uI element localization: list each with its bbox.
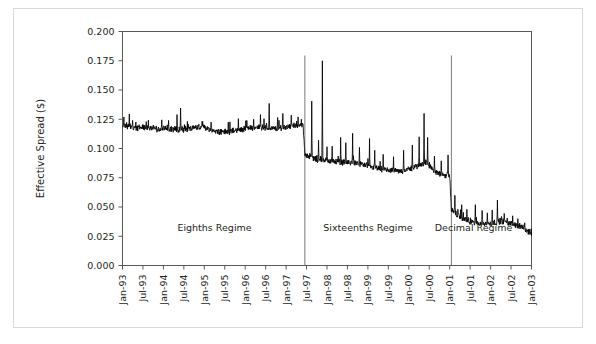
y-tick-label: 0.050: [87, 201, 114, 212]
y-axis-title: Effective Spread ($): [35, 99, 46, 198]
x-tick-label: Jul-00: [424, 275, 435, 303]
x-tick-label: Jan-01: [444, 275, 455, 306]
x-tick-label: Jan-94: [158, 275, 169, 306]
x-tick-label: Jan-97: [281, 275, 292, 306]
x-tick-label: Jan-03: [526, 275, 537, 306]
x-tick-label: Jul-02: [506, 275, 517, 303]
regime-annotation: Sixteenths Regime: [323, 222, 412, 233]
regime-annotations: Eighths RegimeSixteenths RegimeDecimal R…: [177, 222, 512, 233]
x-tick-label: Jul-98: [342, 275, 353, 303]
x-tick-label: Jul-97: [301, 275, 312, 303]
y-tick-label: 0.175: [87, 55, 114, 66]
x-tick-label: Jan-95: [199, 275, 210, 306]
x-axis-ticks: Jan-93Jul-93Jan-94Jul-94Jan-95Jul-95Jan-…: [117, 266, 537, 306]
effective-spread-line-chart: 0.0000.0250.0500.0750.1000.1250.1500.175…: [0, 0, 596, 344]
y-tick-label: 0.125: [87, 114, 114, 125]
x-tick-label: Jul-99: [383, 275, 394, 303]
x-tick-label: Jul-96: [260, 275, 271, 303]
y-tick-label: 0.000: [87, 260, 114, 271]
x-tick-label: Jan-93: [117, 275, 128, 306]
x-tick-label: Jan-00: [403, 275, 414, 306]
y-axis-title-label: Effective Spread ($): [35, 99, 46, 198]
regime-annotation: Eighths Regime: [177, 222, 251, 233]
y-tick-label: 0.075: [87, 172, 114, 183]
x-tick-label: Jan-02: [485, 275, 496, 306]
y-tick-label: 0.150: [87, 84, 114, 95]
x-tick-label: Jan-98: [322, 275, 333, 306]
x-tick-label: Jan-96: [240, 275, 251, 306]
y-tick-label: 0.100: [87, 143, 114, 154]
chart-figure: 0.0000.0250.0500.0750.1000.1250.1500.175…: [0, 0, 596, 344]
x-tick-label: Jul-94: [178, 275, 189, 303]
regime-annotation: Decimal Regime: [435, 222, 513, 233]
y-tick-label: 0.200: [87, 26, 114, 37]
x-tick-label: Jul-01: [465, 275, 476, 303]
regime-divider-lines: [305, 56, 452, 266]
x-tick-label: Jan-99: [362, 275, 373, 306]
data-series-effective-spread: [123, 61, 532, 236]
y-tick-label: 0.025: [87, 231, 114, 242]
x-tick-label: Jul-95: [219, 275, 230, 303]
y-axis-ticks: 0.0000.0250.0500.0750.1000.1250.1500.175…: [87, 26, 122, 271]
x-tick-label: Jul-93: [137, 275, 148, 303]
series-line-path: [123, 61, 532, 236]
